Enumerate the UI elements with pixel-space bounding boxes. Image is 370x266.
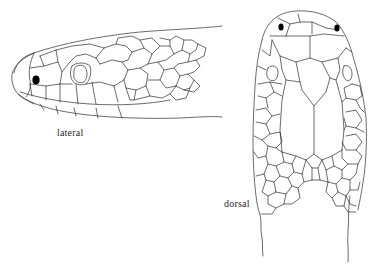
- dorsal-view-drawing: [0, 0, 370, 266]
- figure: lateral: [0, 0, 370, 266]
- left-eye-icon: [278, 23, 283, 30]
- dorsal-view-label: dorsal: [224, 198, 250, 209]
- right-eye-icon: [334, 24, 339, 31]
